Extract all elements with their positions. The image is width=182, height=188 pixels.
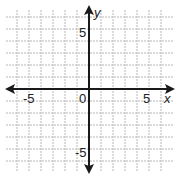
- tick-label-x-neg5: -5: [23, 91, 35, 106]
- tick-label-y-pos5: 5: [79, 25, 86, 40]
- coordinate-plane: y x -5 0 5 5 -5: [0, 0, 182, 188]
- tick-label-y-neg5: -5: [75, 145, 87, 160]
- x-axis-label: x: [163, 91, 171, 106]
- origin-label: 0: [79, 91, 86, 106]
- tick-label-x-pos5: 5: [143, 91, 150, 106]
